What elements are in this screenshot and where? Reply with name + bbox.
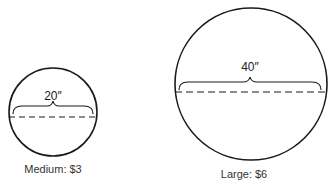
large-diameter-label: 40″ xyxy=(241,60,259,74)
large-caption: Large: $6 xyxy=(221,168,267,180)
large-pizza-circle xyxy=(175,8,327,160)
medium-caption: Medium: $3 xyxy=(24,163,81,175)
medium-pizza-circle xyxy=(9,68,97,156)
large-brace xyxy=(179,77,321,90)
medium-diameter-label: 20″ xyxy=(44,89,62,103)
